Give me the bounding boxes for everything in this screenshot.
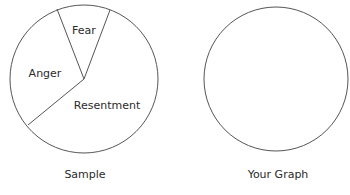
slice-label-fear: Fear [72, 24, 96, 37]
charts-canvas: Fear Anger Resentment [0, 0, 350, 195]
your-graph-caption: Your Graph [218, 168, 338, 181]
your-graph-pie-chart [204, 7, 348, 151]
sample-pie-chart: Fear Anger Resentment [10, 5, 158, 153]
your-graph-pie-outline [204, 7, 348, 151]
slice-label-resentment: Resentment [74, 99, 141, 112]
sample-caption: Sample [25, 168, 145, 181]
slice-label-anger: Anger [29, 67, 62, 80]
